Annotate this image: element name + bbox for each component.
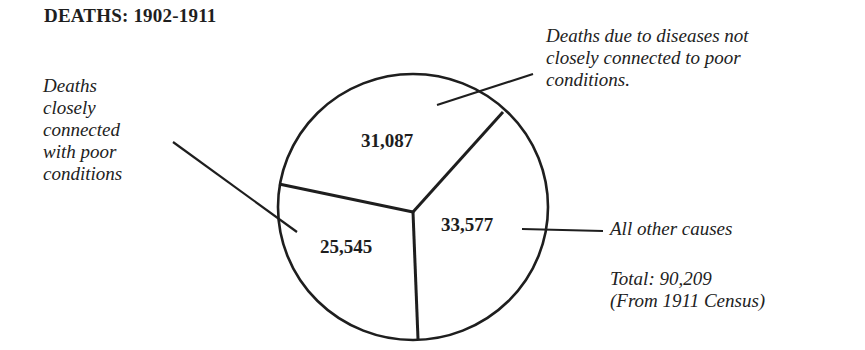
total-line: Total: 90,209 <box>610 268 765 290</box>
slice-label-other-causes: All other causes <box>610 218 732 240</box>
pie-outline <box>278 74 548 340</box>
total-annotation: Total: 90,209 (From 1911 Census) <box>610 268 765 312</box>
slice-label-not-connected: Deaths due to diseases not closely conne… <box>546 25 846 91</box>
slice-divider-upper-right <box>413 112 503 212</box>
slice-value-not-connected: 31,087 <box>361 130 413 152</box>
slice-divider-bottom <box>413 212 418 339</box>
source-line: (From 1911 Census) <box>610 290 765 312</box>
leader-line-right <box>522 229 603 231</box>
slice-label-poor-conditions: Deaths closely connected with poor condi… <box>43 75 173 185</box>
slice-value-other-causes: 33,577 <box>441 214 493 236</box>
slice-value-poor-conditions: 25,545 <box>320 236 372 258</box>
slice-divider-left <box>279 184 413 212</box>
